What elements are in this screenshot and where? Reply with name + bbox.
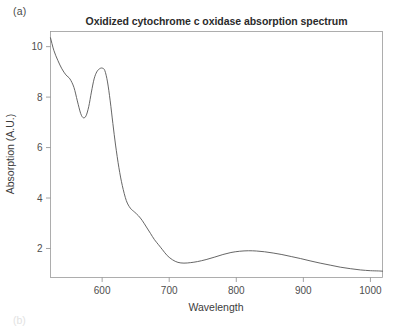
x-tick-label: 700 [161, 285, 178, 296]
x-tick-label: 600 [94, 285, 111, 296]
x-tick-label: 1000 [359, 285, 382, 296]
spectrum-series [51, 38, 383, 271]
x-tick-label: 900 [295, 285, 312, 296]
y-tick-label: 10 [31, 41, 43, 52]
y-tick-label: 4 [37, 193, 43, 204]
y-axis-ticks: 246810 [31, 41, 50, 254]
x-axis-title: Wavelength [188, 301, 243, 313]
y-tick-label: 2 [37, 243, 43, 254]
x-tick-label: 800 [228, 285, 245, 296]
panel-label-b: (b) [13, 314, 26, 326]
y-tick-label: 8 [37, 92, 43, 103]
y-tick-label: 6 [37, 142, 43, 153]
y-axis-title: Absorption (A.U.) [4, 114, 16, 195]
x-axis-ticks: 6007008009001000 [94, 278, 382, 296]
